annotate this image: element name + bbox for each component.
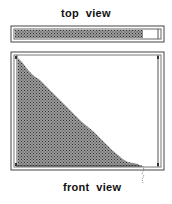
liquid-fill [18, 58, 140, 166]
front-view-label: front view [63, 181, 121, 193]
diagram-canvas [0, 0, 172, 204]
front-view [11, 52, 164, 183]
drip-icon [142, 166, 144, 183]
top-view [11, 26, 164, 42]
